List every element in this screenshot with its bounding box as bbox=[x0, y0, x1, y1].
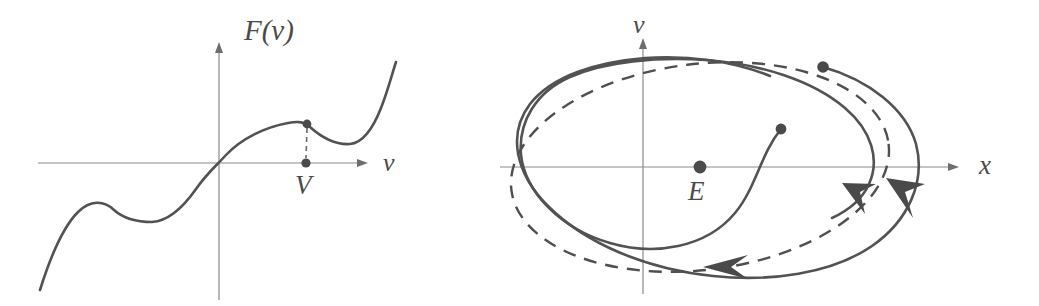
equilibrium-label-E: E bbox=[688, 178, 705, 205]
outer-trajectory-start-dot bbox=[817, 61, 829, 73]
left-y-axis-label: F(v) bbox=[244, 16, 294, 45]
right-panel-group bbox=[499, 42, 949, 294]
left-curve-Fv bbox=[40, 62, 396, 290]
left-x-axis-label: v bbox=[383, 150, 395, 176]
right-x-axis-label: x bbox=[979, 152, 991, 179]
figure-vector-layer bbox=[0, 0, 1039, 306]
left-axis-point-dot bbox=[301, 158, 310, 167]
right-y-axis-label: v bbox=[633, 12, 645, 38]
left-panel-group bbox=[38, 52, 396, 300]
left-drop-line bbox=[306, 128, 307, 158]
equilibrium-point-dot bbox=[694, 161, 707, 174]
inner-outward-trajectory bbox=[521, 59, 874, 249]
left-curve-point-dot bbox=[303, 120, 312, 129]
inner-trajectory-start-dot bbox=[776, 124, 787, 135]
figure-canvas: F(v) v V v x E bbox=[0, 0, 1039, 306]
left-point-label-V: V bbox=[295, 172, 312, 199]
